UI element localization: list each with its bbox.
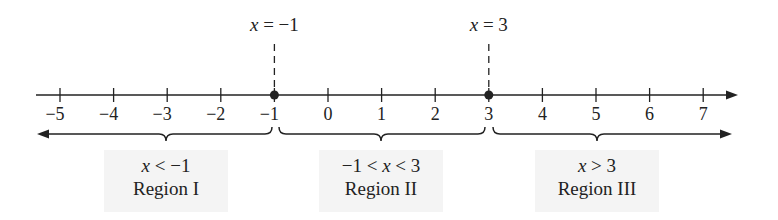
tick-label: 7 — [699, 104, 708, 124]
tick-label: −2 — [206, 104, 225, 124]
arrow-left-icon — [37, 130, 49, 139]
tick-label: 4 — [538, 104, 547, 124]
tick-label: 5 — [592, 104, 601, 124]
region-inequality: −1 < x < 3 — [342, 155, 421, 176]
tick-label: −4 — [99, 104, 118, 124]
tick-label: 2 — [431, 104, 440, 124]
number-line-axis — [36, 91, 738, 100]
region-brace — [493, 127, 722, 141]
critical-point-dot — [270, 91, 279, 100]
arrow-right-icon — [720, 130, 732, 139]
region-name: Region II — [345, 178, 417, 199]
tick-label: −1 — [260, 104, 279, 124]
tick-label: −3 — [153, 104, 172, 124]
arrow-right-icon — [726, 91, 738, 100]
critical-points: x = −1x = 3 — [249, 14, 508, 100]
tick-label: 1 — [377, 104, 386, 124]
tick-label: −5 — [45, 104, 64, 124]
number-line-diagram: −5−4−3−2−101234567 x = −1x = 3 x < −1Reg… — [0, 0, 778, 220]
critical-point-label: x = 3 — [469, 14, 508, 35]
critical-point-dot — [484, 91, 493, 100]
tick-label: 6 — [645, 104, 654, 124]
critical-point-label: x = −1 — [249, 14, 299, 35]
region-brace — [279, 127, 485, 141]
region-inequality: x < −1 — [141, 155, 191, 176]
region-name: Region I — [133, 178, 199, 199]
tick-label: 0 — [324, 104, 333, 124]
region-brace — [47, 127, 272, 141]
region-inequality: x > 3 — [577, 155, 616, 176]
region-name: Region III — [558, 178, 637, 199]
region-braces — [37, 127, 732, 141]
tick-label: 3 — [484, 104, 493, 124]
tick-marks: −5−4−3−2−101234567 — [45, 88, 707, 124]
